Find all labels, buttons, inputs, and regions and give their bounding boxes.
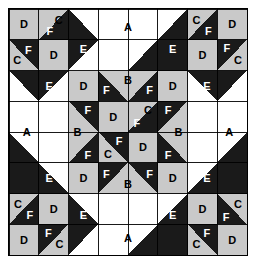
label-edge-bottom-e-left: E xyxy=(80,210,87,221)
label-corner-tl-d2: D xyxy=(50,50,58,61)
label-center-f-lb: F xyxy=(84,150,91,161)
label-corner-br-d: D xyxy=(198,203,206,214)
label-edge-bottom-a: A xyxy=(124,233,132,244)
label-center-inner-f-bl: F xyxy=(116,136,123,147)
label-center-inner-c-tr: C xyxy=(144,105,152,116)
label-edge-bottom-e-right: E xyxy=(169,210,176,221)
label-center-d-bl: D xyxy=(79,173,87,184)
label-edge-left-a: A xyxy=(23,127,31,138)
label-corner-tl-f: F xyxy=(47,26,54,37)
label-center-b-top: B xyxy=(124,74,132,85)
label-center-b-left: B xyxy=(73,127,81,138)
label-corner-bl-c: C xyxy=(14,199,22,210)
label-edge-right-e-bottom: E xyxy=(203,173,210,184)
label-corner-tr-f: F xyxy=(205,26,212,37)
label-center-f-bl: F xyxy=(103,168,110,179)
label-corner-tr-c2: C xyxy=(234,54,242,65)
label-center-f-rt: F xyxy=(165,104,172,115)
label-edge-left-e-bottom: E xyxy=(45,173,52,184)
label-corner-tl-d: D xyxy=(20,19,28,30)
label-corner-bl-d2: D xyxy=(20,234,28,245)
quilt-label-layer: DCFFCDCFDDFCCFDDFCDCFFCDAEEAEEAEEAEEDDDD… xyxy=(9,9,247,255)
label-corner-tr-d: D xyxy=(228,19,236,30)
label-corner-br-f: F xyxy=(223,211,230,222)
label-corner-tr-c: C xyxy=(192,14,200,25)
label-edge-top-e-left: E xyxy=(80,43,87,54)
label-center-inner-c-bl: C xyxy=(104,148,112,159)
label-corner-tl-c2: C xyxy=(13,54,21,65)
label-corner-bl-d: D xyxy=(50,203,58,214)
label-center-f-tr: F xyxy=(146,85,153,96)
label-corner-br-c2: C xyxy=(192,239,200,250)
label-center-inner-f-tr: F xyxy=(134,117,141,128)
label-edge-left-e-top: E xyxy=(45,80,52,91)
label-center-d-tl: D xyxy=(79,80,87,91)
label-corner-br-f2: F xyxy=(203,228,210,239)
label-corner-bl-c2: C xyxy=(56,239,64,250)
label-center-d-br: D xyxy=(169,173,177,184)
label-center-inner-d-br: D xyxy=(139,142,147,153)
label-center-inner-d-tl: D xyxy=(109,111,117,122)
label-corner-br-c: C xyxy=(234,199,242,210)
label-corner-bl-f2: F xyxy=(45,227,52,238)
label-corner-tl-f2: F xyxy=(25,44,32,55)
label-center-f-tl: F xyxy=(103,85,110,96)
label-corner-tr-d2: D xyxy=(198,50,206,61)
label-center-b-right: B xyxy=(175,127,183,138)
label-edge-top-a: A xyxy=(124,22,132,33)
label-edge-right-e-top: E xyxy=(203,80,210,91)
label-center-b-bottom: B xyxy=(124,179,132,190)
label-center-f-lt: F xyxy=(84,104,91,115)
label-edge-top-e-right: E xyxy=(169,43,176,54)
label-edge-right-a: A xyxy=(225,127,233,138)
quilt-block-diagram: DCFFCDCFDDFCCFDDFCDCFFCDAEEAEEAEEAEEDDDD… xyxy=(8,8,248,256)
label-center-d-tr: D xyxy=(169,80,177,91)
label-corner-tr-f2: F xyxy=(224,43,231,54)
label-corner-bl-f: F xyxy=(26,210,33,221)
label-center-f-br: F xyxy=(146,168,153,179)
label-corner-tl-c: C xyxy=(55,14,63,25)
label-center-f-rb: F xyxy=(165,150,172,161)
label-corner-br-d2: D xyxy=(228,234,236,245)
